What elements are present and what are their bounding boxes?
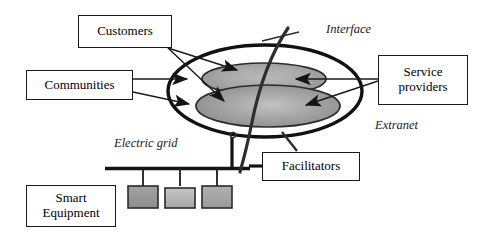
diagram-canvas: Customers Communities Service providers … — [0, 0, 492, 233]
equipment-node-3 — [202, 186, 232, 208]
arrow-customers-to-upper — [168, 48, 237, 70]
community-flow-arrows — [133, 79, 189, 104]
label-box-facilitators-text: Facilitators — [278, 159, 345, 174]
label-box-customers[interactable]: Customers — [78, 15, 172, 48]
equipment-node-1 — [128, 186, 158, 208]
arrow-communities-lower — [133, 92, 189, 104]
annotation-extranet: Extranet — [375, 118, 418, 133]
annotation-electric-grid: Electric grid — [114, 136, 178, 151]
label-box-smart-equipment[interactable]: Smart Equipment — [26, 185, 116, 227]
label-box-facilitators[interactable]: Facilitators — [262, 152, 360, 181]
label-box-service-providers[interactable]: Service providers — [378, 55, 468, 105]
label-box-smart-equipment-text: Smart Equipment — [38, 191, 103, 221]
lower-inner-ellipse — [196, 85, 340, 127]
label-box-service-providers-text: Service providers — [394, 65, 451, 95]
label-box-communities-text: Communities — [40, 78, 118, 93]
label-box-communities[interactable]: Communities — [26, 70, 133, 100]
label-box-customers-text: Customers — [93, 24, 157, 39]
annotation-interface: Interface — [326, 22, 371, 37]
equipment-node-2 — [165, 188, 195, 208]
